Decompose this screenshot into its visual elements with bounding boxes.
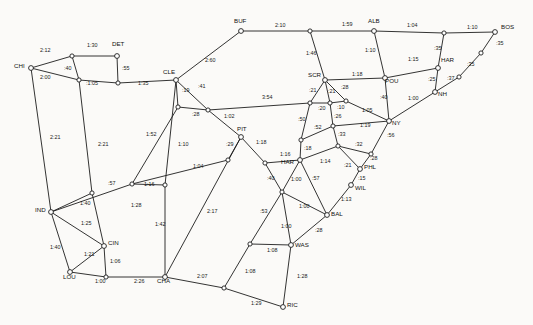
edge-travel-time-label: 1:00: [408, 95, 419, 101]
junction-node[interactable]: [299, 138, 303, 142]
edge-travel-time-label: 1:06: [110, 258, 121, 264]
junction-node[interactable]: [222, 286, 226, 290]
junction-node[interactable]: [457, 75, 461, 79]
city-label-lou: LOU: [63, 273, 76, 280]
city-node-chi[interactable]: [29, 66, 34, 71]
city-label-buf: BUF: [234, 17, 247, 24]
city-node-was[interactable]: [289, 243, 294, 248]
city-label-cin: CIN: [108, 239, 119, 246]
city-label-wil: WIL: [355, 184, 367, 191]
city-node-phl[interactable]: [358, 167, 363, 172]
city-node-pit[interactable]: [239, 135, 244, 140]
city-node-buf[interactable]: [239, 29, 244, 34]
graph-edge: [250, 192, 282, 244]
graph-edge: [176, 80, 178, 107]
edge-travel-time-label: 2:12: [40, 47, 51, 53]
graph-edge: [165, 277, 224, 288]
city-node-bal[interactable]: [325, 213, 330, 218]
edge-travel-time-label: :57: [108, 180, 116, 186]
edge-travel-time-label: 2:60: [205, 57, 216, 63]
city-node-cle[interactable]: [174, 78, 179, 83]
graph-edge: [72, 56, 79, 80]
edge-travel-time-label: :28: [315, 227, 323, 233]
graph-edge: [51, 212, 104, 246]
edge-travel-time-label: 1:52: [146, 131, 157, 137]
junction-node[interactable]: [479, 51, 483, 55]
edge-travel-time-label: 2:00: [40, 74, 51, 80]
edge-travel-time-label: 1:15: [408, 56, 419, 62]
junction-node[interactable]: [344, 99, 348, 103]
graph-edge: [283, 245, 291, 307]
junction-node[interactable]: [263, 161, 267, 165]
city-label-alb: ALB: [368, 17, 380, 24]
edge-travel-time-label: 1:21: [84, 251, 95, 257]
city-node-det[interactable]: [115, 54, 120, 59]
junction-node[interactable]: [280, 190, 284, 194]
city-node-wil[interactable]: [349, 183, 354, 188]
edge-travel-time-label: :52: [314, 124, 322, 130]
edge-travel-time-label: 2:17: [207, 208, 218, 214]
junction-node[interactable]: [90, 191, 94, 195]
junction-node[interactable]: [328, 101, 332, 105]
network-graph: 2:121:302:00:40:1:05:551:352:602:101:591…: [0, 0, 533, 325]
junction-node[interactable]: [130, 182, 134, 186]
edge-travel-time-label: 1:18: [352, 71, 363, 77]
graph-edge: [70, 246, 104, 272]
edge-travel-time-label: 2:26: [134, 278, 145, 284]
junction-node[interactable]: [77, 78, 81, 82]
city-label-ny: NY: [392, 119, 401, 126]
junction-node[interactable]: [176, 105, 180, 109]
edge-travel-time-label: :21: [344, 162, 352, 168]
city-label-pou: POU: [385, 77, 398, 84]
edge-travel-time-label: 3:54: [262, 94, 273, 100]
edge-travel-time-label: :20: [318, 105, 326, 111]
edge-travel-time-label: 1:10: [365, 47, 376, 53]
junction-node[interactable]: [308, 101, 312, 105]
graph-edge: [176, 31, 241, 80]
city-node-bos[interactable]: [493, 30, 498, 35]
junction-node[interactable]: [206, 108, 210, 112]
edge-travel-time-label: :26: [334, 113, 342, 119]
city-node-scr[interactable]: [323, 78, 328, 83]
city-node-ric[interactable]: [281, 305, 286, 310]
edge-travel-time-label: 1:28: [297, 273, 308, 279]
city-node-cin[interactable]: [102, 244, 107, 249]
junction-node[interactable]: [116, 81, 120, 85]
junction-node[interactable]: [163, 183, 167, 187]
junction-node[interactable]: [331, 124, 335, 128]
city-label-nh: NH: [438, 90, 447, 97]
edge-travel-time-label: 1:40: [50, 244, 61, 250]
graph-edge: [250, 244, 291, 245]
junction-node[interactable]: [248, 242, 252, 246]
city-node-nh[interactable]: [433, 90, 438, 95]
city-node-alb[interactable]: [372, 29, 377, 34]
city-label-bal: BAL: [331, 210, 343, 217]
edge-travel-time-label: :40: [380, 94, 388, 100]
city-label-pit: PIT: [237, 125, 247, 132]
city-node-har[interactable]: [298, 158, 303, 163]
edge-travel-time-label: :18: [304, 145, 312, 151]
junction-node[interactable]: [226, 158, 230, 162]
city-node-ind[interactable]: [49, 210, 54, 215]
edge-travel-time-label: 2:21: [98, 141, 109, 147]
edge-travel-time-label: 1:59: [342, 21, 353, 27]
city-node-har[interactable]: [436, 66, 441, 71]
edge-travel-time-label: :21: [309, 87, 317, 93]
city-label-har: HAR: [281, 158, 295, 165]
edge-travel-time-label: :35: [467, 61, 475, 67]
junction-node[interactable]: [308, 29, 312, 33]
edge-travel-time-label: 1:42: [155, 221, 166, 227]
graph-edge: [31, 68, 51, 212]
city-node-ny[interactable]: [387, 119, 392, 124]
edge-travel-time-label: :10: [337, 104, 345, 110]
city-label-cha: CHA: [157, 277, 171, 284]
junction-node[interactable]: [70, 54, 74, 58]
edge-travel-time-label: 1:10: [178, 141, 189, 147]
edge-travel-time-label: 1:35: [138, 80, 149, 86]
edge-travel-time-label: 1:18: [256, 139, 267, 145]
junction-node[interactable]: [336, 144, 340, 148]
junction-node[interactable]: [442, 31, 446, 35]
edge-travel-time-label: :1:05: [86, 80, 98, 86]
nodes-layer: [29, 29, 498, 310]
graph-edge: [300, 140, 301, 160]
